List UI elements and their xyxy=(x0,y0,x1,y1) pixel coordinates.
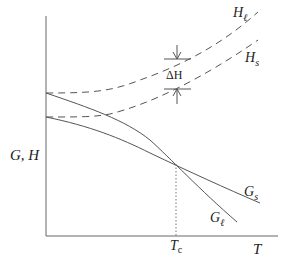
x-axis-label: T xyxy=(253,241,263,257)
delta-h-label: ΔH xyxy=(166,68,183,82)
tc-label: Tc xyxy=(170,238,183,255)
g-liquid-curve xyxy=(46,93,237,222)
h-solid-curve xyxy=(46,40,258,117)
y-axis-label: G, H xyxy=(10,147,40,163)
g-solid-curve xyxy=(46,117,260,203)
phase-diagram: ΔH G, H T Hℓ Hs Gs Gℓ Tc xyxy=(0,0,283,262)
diagram-svg: ΔH G, H T Hℓ Hs Gs Gℓ Tc xyxy=(0,0,283,262)
h-liquid-curve xyxy=(46,12,258,93)
g-liquid-label: Gℓ xyxy=(210,210,224,228)
h-solid-label: Hs xyxy=(244,50,259,68)
h-liquid-label: Hℓ xyxy=(232,5,247,23)
